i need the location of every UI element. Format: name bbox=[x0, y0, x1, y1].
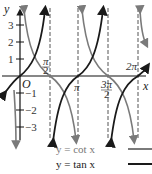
legend-cot: y = cot x bbox=[56, 143, 152, 155]
x-axis-label: x bbox=[142, 79, 149, 93]
y-tick-m2: −2 bbox=[25, 104, 37, 116]
x-tick-two-pi: 2π bbox=[126, 60, 138, 72]
legend-tan: y = tan x bbox=[56, 158, 152, 170]
legend-cot-swatch bbox=[128, 148, 152, 150]
x-tick-pi: π bbox=[74, 81, 80, 93]
x-tick-three-pi-half-den: 2 bbox=[104, 88, 110, 100]
y-tick-1: 1 bbox=[8, 53, 14, 65]
y-tick-m1: −1 bbox=[25, 87, 37, 99]
y-tick-3: 3 bbox=[8, 19, 14, 31]
y-tick-2: 2 bbox=[8, 36, 14, 48]
x-tick-pi-half-den: 2 bbox=[43, 64, 49, 76]
y-axis-label: y bbox=[3, 2, 10, 16]
legend-cot-label: y = cot x bbox=[56, 143, 128, 155]
asymptotes bbox=[50, 8, 138, 138]
y-tick-m3: −3 bbox=[25, 121, 37, 133]
legend-tan-swatch bbox=[128, 163, 152, 165]
legend-tan-label: y = tan x bbox=[56, 158, 128, 170]
